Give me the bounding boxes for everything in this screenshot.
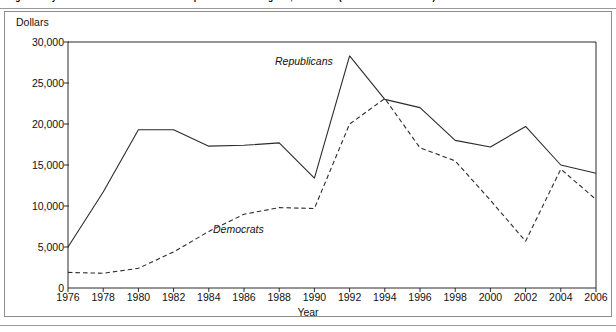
series-label-democrats: Democrats [213, 223, 264, 235]
series-line-democrats [68, 99, 596, 274]
series-label-republicans: Republicans [275, 55, 333, 67]
chart-page: Figure Party Contributions and Coordinat… [0, 0, 616, 332]
series-line-republicans [68, 56, 596, 247]
plot-area [0, 0, 616, 332]
